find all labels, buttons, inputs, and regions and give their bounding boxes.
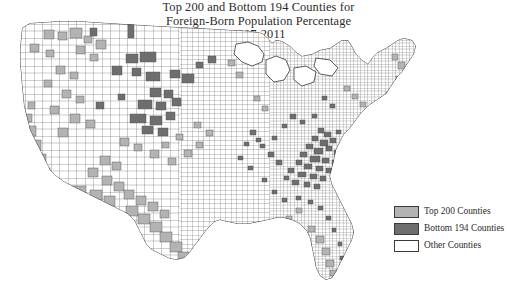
legend-swatch-bottom-194 [394, 223, 419, 235]
legend-item-bottom-194: Bottom 194 Counties [394, 221, 514, 237]
map-county-base [0, 10, 440, 282]
legend-label-bottom-194: Bottom 194 Counties [424, 224, 504, 233]
legend-swatch-top-200 [394, 206, 419, 218]
legend-label-top-200: Top 200 Counties [424, 207, 491, 216]
figure-container: Top 200 and Bottom 194 Counties for Fore… [0, 0, 517, 290]
legend-item-top-200: Top 200 Counties [394, 204, 514, 220]
legend-item-other: Other Counties [394, 238, 514, 254]
legend-label-other: Other Counties [424, 241, 481, 250]
us-map-svg [0, 10, 440, 282]
us-county-choropleth-map [0, 10, 440, 282]
legend-swatch-other [394, 240, 419, 252]
map-legend: Top 200 Counties Bottom 194 Counties Oth… [394, 204, 514, 255]
